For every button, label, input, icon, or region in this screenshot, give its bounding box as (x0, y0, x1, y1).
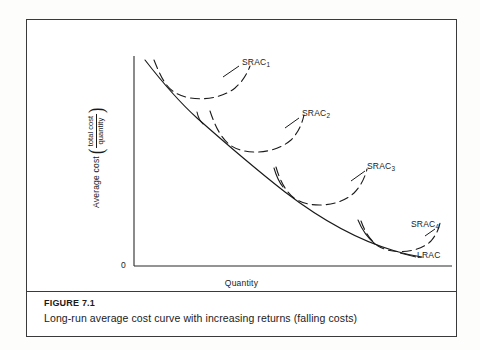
figure-title: Long-run average cost curve with increas… (44, 312, 444, 324)
lrac-label: LRAC (417, 250, 440, 260)
y-axis-label: Average cost ( total cost quantity ) (83, 82, 109, 232)
figure-frame: Average cost ( total cost quantity ) 0 Q… (26, 19, 457, 337)
srac4-leader-line (425, 229, 435, 236)
srac1-subscript: 1 (266, 61, 270, 68)
srac4-subscript: 4 (435, 223, 439, 230)
srac2-subscript: 2 (326, 112, 330, 119)
y-axis-label-text: Average cost (91, 156, 101, 208)
origin-label: 0 (121, 260, 126, 270)
lrac-leader-line (400, 253, 416, 257)
srac1-curve (154, 60, 250, 99)
lrac-curve (145, 60, 422, 257)
figure-caption: FIGURE 7.1 Long-run average cost curve w… (44, 298, 444, 324)
srac2-label: SRAC2 (302, 108, 330, 118)
srac2-leader-line (285, 118, 299, 128)
figure-number: FIGURE 7.1 (44, 298, 444, 308)
y-axis-paren-close: ) (85, 108, 107, 113)
srac4-label: SRAC4 (411, 219, 439, 229)
srac3-subscript: 3 (391, 165, 395, 172)
y-axis-fraction: total cost quantity (87, 114, 105, 148)
caption-divider (27, 291, 456, 292)
srac3-curve (276, 167, 367, 205)
srac1-leader-line (223, 66, 239, 77)
srac1-label: SRAC1 (242, 57, 270, 67)
plot-area: Average cost ( total cost quantity ) 0 Q… (27, 20, 456, 291)
srac3-label: SRAC3 (367, 161, 395, 171)
y-axis-fraction-denominator: quantity (97, 116, 105, 147)
x-axis-label: Quantity (27, 278, 456, 288)
y-axis-paren-open: ( (85, 149, 107, 154)
srac2-curve (210, 111, 304, 152)
figure-page: Average cost ( total cost quantity ) 0 Q… (0, 0, 480, 350)
